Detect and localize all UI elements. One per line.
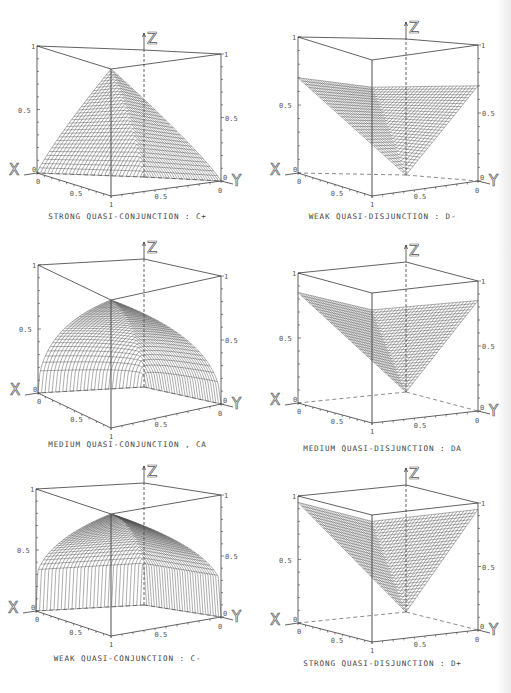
y-tick-label: 0.5: [155, 193, 168, 201]
plot-weak-quasi-disjunction: 110.50.5000010.50.5ZXY WEAK QUASI-DISJUN…: [255, 0, 510, 231]
x-axis-label: X: [10, 381, 20, 399]
y-tick-label: 0.5: [155, 631, 168, 639]
x-tick-label: 0: [37, 398, 41, 406]
x-tick-label: 1: [109, 201, 113, 209]
z-tick-label: 1: [481, 278, 485, 286]
z-tick-label: 0.5: [225, 337, 238, 345]
plot-strong-quasi-disjunction: 110.50.5000010.50.5ZXY STRONG QUASI-DISJ…: [255, 460, 510, 691]
y-tick-label: 0: [475, 636, 479, 644]
y-tick-label: 0: [475, 187, 479, 195]
y-tick-label: 0: [218, 410, 222, 418]
x-tick-label: 0.5: [331, 190, 344, 198]
z-tick-label: 1: [481, 500, 485, 508]
plot-weak-quasi-conjunction: 110.50.5000010.50.5ZXY WEAK QUASI-CONJUN…: [0, 460, 255, 691]
z-axis-label: Z: [409, 242, 419, 260]
z-tick-label: 0.5: [279, 102, 292, 110]
x-axis-label: X: [8, 599, 18, 617]
plot-strong-quasi-conjunction: 110.50.5000010.50.5ZXY STRONG QUASI-CONJ…: [0, 0, 255, 231]
z-tick-label: 0: [480, 623, 484, 631]
x-tick-label: 1: [109, 641, 113, 649]
y-tick-label: 0.5: [414, 422, 427, 430]
bounding-box: [24, 33, 233, 198]
y-axis-label: Y: [488, 172, 499, 190]
z-tick-label: 0: [223, 174, 227, 182]
y-tick-label: 0.5: [414, 641, 427, 649]
y-tick-label: 0.5: [155, 421, 168, 429]
x-tick-label: 0: [297, 178, 301, 186]
z-tick-label: 0.5: [482, 343, 495, 351]
z-tick-label: 0.5: [225, 553, 238, 561]
x-tick-label: 0: [297, 628, 301, 636]
z-tick-label: 0.5: [482, 564, 495, 572]
x-axis-label: X: [9, 161, 19, 179]
z-tick-label: 0.5: [225, 115, 238, 123]
x-axis-label: X: [270, 391, 280, 409]
y-axis-label: Y: [231, 395, 242, 413]
y-axis-label: Y: [488, 402, 499, 420]
z-tick-label: 0: [223, 397, 227, 405]
x-tick-label: 0.5: [70, 416, 83, 424]
z-tick-label: 1: [30, 486, 34, 494]
y-axis-label: Y: [231, 172, 242, 190]
x-tick-label: 1: [370, 201, 374, 209]
x-tick-label: 0.5: [70, 190, 83, 198]
y-tick-label: 0: [218, 187, 222, 195]
y-axis-label: Y: [488, 621, 499, 639]
plot-caption: STRONG QUASI-DISJUNCTION : D+: [255, 659, 510, 668]
z-tick-label: 0: [31, 604, 35, 612]
z-tick-label: 0: [223, 610, 227, 618]
z-tick-label: 0.5: [279, 335, 292, 343]
y-tick-label: 0: [475, 417, 479, 425]
x-tick-label: 0.5: [331, 418, 344, 426]
bounding-box: [285, 468, 490, 644]
z-axis-label: Z: [147, 30, 157, 48]
x-tick-label: 1: [370, 428, 374, 436]
z-tick-label: 0: [480, 404, 484, 412]
plot-caption: MEDIUM QUASI-CONJUNCTION , CA: [0, 440, 255, 449]
z-tick-label: 1: [224, 51, 228, 59]
z-tick-label: 0: [293, 166, 297, 174]
z-tick-label: 1: [481, 42, 485, 50]
z-tick-label: 0.5: [17, 547, 30, 555]
z-axis-label: Z: [147, 239, 157, 257]
surface-mesh: [298, 293, 478, 393]
z-tick-label: 1: [292, 34, 296, 42]
surface-mesh: [37, 69, 221, 181]
z-tick-label: 0: [480, 174, 484, 182]
z-tick-label: 0: [33, 386, 37, 394]
z-tick-label: 0: [32, 166, 36, 174]
plot-caption: MEDIUM QUASI-DISJUNCTION : DA: [255, 444, 510, 453]
surface-mesh: [36, 514, 221, 617]
z-tick-label: 0: [293, 616, 297, 624]
x-tick-label: 0: [35, 616, 39, 624]
z-axis-label: Z: [147, 463, 157, 481]
z-tick-label: 1: [32, 262, 36, 270]
z-tick-label: 0: [293, 396, 297, 404]
surface-mesh: [298, 502, 478, 612]
z-tick-label: 1: [224, 492, 228, 500]
z-tick-label: 1: [292, 270, 296, 278]
z-tick-label: 1: [292, 493, 296, 501]
plot-caption: WEAK QUASI-DISJUNCTION : D-: [255, 212, 510, 221]
bounding-box: [285, 245, 490, 425]
surface-plot-c-plus: 110.50.5000010.50.5ZXY: [0, 0, 255, 231]
surface-mesh: [298, 78, 478, 175]
z-tick-label: 0.5: [18, 107, 31, 115]
z-axis-label: Z: [409, 465, 419, 483]
surface-mesh: [38, 300, 221, 404]
surface-plot-d-plus: 110.50.5000010.50.5ZXY: [255, 460, 510, 691]
z-tick-label: 0.5: [279, 557, 292, 565]
surface-plot-ca: 110.50.5000010.50.5ZXY: [0, 230, 255, 461]
y-tick-label: 0.5: [414, 193, 427, 201]
y-axis-label: Y: [231, 608, 242, 626]
x-tick-label: 0: [36, 178, 40, 186]
surface-plot-d-minus: 110.50.5000010.50.5ZXY: [255, 0, 510, 231]
z-tick-label: 0.5: [482, 110, 495, 118]
z-tick-label: 0.5: [19, 326, 32, 334]
z-axis-label: Z: [409, 19, 419, 37]
z-tick-label: 1: [31, 43, 35, 51]
x-tick-label: 0: [297, 408, 301, 416]
x-axis-label: X: [270, 611, 280, 629]
plot-caption: WEAK QUASI-CONJUNCTION : C-: [0, 654, 255, 663]
plot-caption: STRONG QUASI-CONJUNCTION : C+: [0, 212, 255, 221]
